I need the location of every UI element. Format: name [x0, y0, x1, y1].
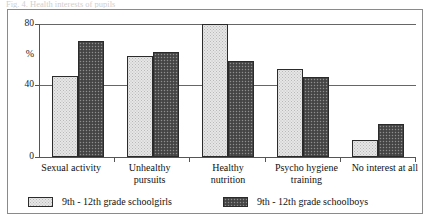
figure-border-box: 80 % 40 0 — [7, 9, 423, 214]
chart-legend: 9th - 12th grade schoolgirls 9th - 12th … — [28, 196, 408, 207]
figure-caption-cropped: Fig. 4. Health interests of pupils — [6, 0, 306, 8]
y-axis-label-80: 80 — [25, 19, 35, 29]
bar-girls — [127, 56, 153, 157]
bar-group — [40, 24, 115, 157]
y-axis-label-0: 0 — [29, 152, 34, 162]
legend-label-schoolgirls: 9th - 12th grade schoolgirls — [62, 196, 172, 207]
bar-boys — [78, 41, 104, 157]
bar-boys — [228, 61, 254, 157]
legend-swatch-girls-icon — [28, 197, 53, 207]
bar-group — [266, 24, 341, 157]
y-axis-label-40: 40 — [25, 80, 35, 90]
x-label-no-interest-at-all: No interest at all — [346, 162, 424, 185]
figure-page: Fig. 4. Health interests of pupils 80 % … — [0, 0, 432, 224]
legend-swatch-boys-icon — [223, 197, 248, 207]
bar-group — [341, 24, 416, 157]
x-label-unhealthy-pursuits: Unhealthy pursuits — [110, 162, 188, 185]
y-axis-unit-label: % — [26, 49, 34, 59]
x-label-sexual-activity: Sexual activity — [32, 162, 110, 185]
bar-group — [115, 24, 190, 157]
x-label-healthy-nutrition: Healthy nutrition — [189, 162, 267, 185]
bar-group — [190, 24, 265, 157]
bar-girls — [52, 76, 78, 157]
bar-girls — [277, 69, 303, 157]
bar-girls — [202, 24, 228, 157]
legend-entry-schoolboys: 9th - 12th grade schoolboys — [213, 196, 408, 207]
legend-entry-schoolgirls: 9th - 12th grade schoolgirls — [28, 196, 213, 207]
legend-label-schoolboys: 9th - 12th grade schoolboys — [257, 196, 368, 207]
bar-boys — [378, 124, 404, 157]
bar-boys — [153, 52, 179, 157]
plot-area: 80 % 40 0 — [39, 24, 416, 158]
bar-boys — [303, 77, 329, 157]
bar-groups — [40, 24, 416, 157]
bar-girls — [352, 140, 378, 157]
x-label-psycho-hygiene-training: Psycho hygiene training — [267, 162, 345, 185]
x-axis-labels: Sexual activity Unhealthy pursuits Healt… — [32, 162, 424, 185]
